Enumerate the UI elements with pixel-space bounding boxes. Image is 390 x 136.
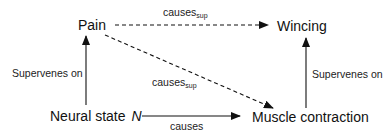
neural-state-variable: N	[131, 108, 141, 124]
node-wincing: Wincing	[277, 19, 327, 33]
arrow-pain-to-muscle	[105, 35, 273, 108]
edge-label-neural-to-pain: Supervenes on	[12, 68, 83, 79]
edge-label-subscript: sup	[196, 12, 207, 19]
edge-label-muscle-to-wincing: Supervenes on	[312, 69, 383, 80]
neural-state-label: Neural state	[50, 108, 125, 124]
node-neural-state: Neural state N	[50, 109, 142, 123]
edge-label-neural-to-muscle: causes	[170, 121, 203, 132]
node-muscle-contraction: Muscle contraction	[252, 110, 369, 124]
edge-label-text: causes	[163, 6, 196, 18]
edge-label-text: causes	[152, 76, 185, 88]
edge-label-pain-to-wincing: causessup	[163, 7, 208, 19]
edge-label-pain-to-muscle: causessup	[152, 77, 197, 89]
edge-label-subscript: sup	[185, 82, 196, 89]
node-pain: Pain	[78, 18, 106, 32]
